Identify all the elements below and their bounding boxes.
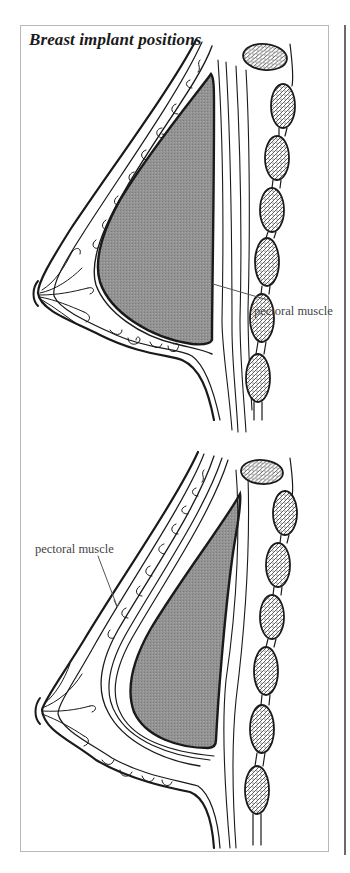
upper-diagram — [34, 40, 296, 432]
upper-pectoral-muscle-label: pectoral muscle — [254, 304, 333, 318]
breast-implant-diagram: pectoral muscle — [0, 0, 350, 873]
lower-diagram — [36, 452, 298, 848]
lower-pectoral-muscle-label: pectoral muscle — [35, 542, 114, 556]
